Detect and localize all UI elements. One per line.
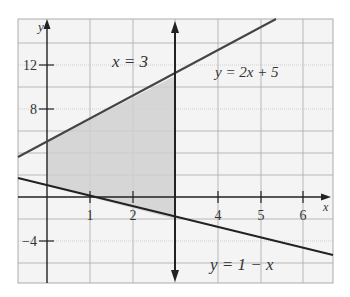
- x-tick-label-1: 1: [87, 208, 94, 223]
- chart-svg: 1 2 4 5 6 12 8 −4 y x x = 3 y = 2x + 5 y…: [0, 0, 350, 297]
- x-tick-label-2: 2: [130, 208, 137, 223]
- y-tick-label-8: 8: [30, 102, 37, 117]
- x-axis-label: x: [322, 200, 329, 214]
- annotation-y-equals-1-minus-x: y = 1 − x: [208, 255, 274, 274]
- annotation-x-equals-3: x = 3: [111, 52, 148, 71]
- x-tick-label-6: 6: [300, 208, 307, 223]
- annotation-y-equals-2x-plus-5: y = 2x + 5: [213, 64, 279, 80]
- y-tick-label-12: 12: [23, 58, 37, 73]
- y-tick-label-minus-4: −4: [22, 234, 37, 249]
- y-axis-label: y: [36, 19, 44, 34]
- x-tick-label-4: 4: [215, 208, 222, 223]
- x-tick-label-5: 5: [258, 208, 265, 223]
